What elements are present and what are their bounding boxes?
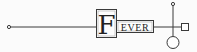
left-terminal-dot bbox=[7, 25, 10, 28]
top-terminal-dot bbox=[171, 2, 174, 5]
circle-node bbox=[167, 37, 179, 49]
title-rest-text: EVER bbox=[121, 22, 150, 33]
square-node bbox=[182, 24, 189, 31]
fever-diagram: F EVER bbox=[0, 0, 197, 52]
initial-letter: F bbox=[97, 10, 115, 40]
